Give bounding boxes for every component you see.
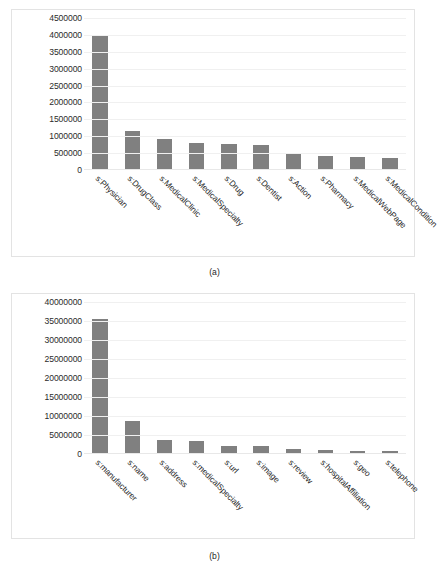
bar-slot: [277, 18, 309, 170]
y-axis-tick-label: 1000000: [49, 132, 82, 141]
x-axis-labels-b: s:manufacturers:names:addresss:medicalSp…: [84, 456, 406, 536]
gridline: [84, 302, 406, 303]
gridline: [84, 52, 406, 53]
plot-wrapper-a: 0500000100000015000002000000250000030000…: [12, 10, 414, 256]
bar: [125, 421, 140, 454]
y-axis-tick-label: 1500000: [49, 115, 82, 124]
y-axis-tick-label: 5000000: [49, 431, 82, 440]
bar-slot: [309, 18, 341, 170]
bar-slot: [374, 18, 406, 170]
bar: [350, 157, 365, 171]
y-axis-tick-label: 3500000: [49, 47, 82, 56]
gridline: [84, 321, 406, 322]
gridline: [84, 35, 406, 36]
bar-series-a: [84, 18, 406, 170]
y-axis-tick-label: 25000000: [45, 355, 82, 364]
bar: [157, 139, 172, 170]
gridline: [84, 340, 406, 341]
y-axis-a: 0500000100000015000002000000250000030000…: [16, 18, 82, 170]
bar: [157, 440, 172, 454]
y-axis-tick-label: 2500000: [49, 81, 82, 90]
y-axis-tick-label: 0: [77, 166, 82, 175]
gridline: [84, 153, 406, 154]
x-axis-line-a: [84, 169, 406, 170]
bar-slot: [342, 18, 374, 170]
y-axis-tick-label: 10000000: [45, 412, 82, 421]
x-axis-label-slot: s:MedicalSpecialty: [181, 172, 213, 252]
x-axis-label-slot: s:Action: [277, 172, 309, 252]
y-axis-tick-label: 3000000: [49, 64, 82, 73]
x-axis-tick-label: s:geo: [352, 458, 372, 478]
y-axis-tick-label: 4500000: [49, 14, 82, 23]
x-axis-tick-label: s:MedicalCondition: [384, 174, 439, 229]
gridline: [84, 378, 406, 379]
gridline: [84, 69, 406, 70]
gridline: [84, 416, 406, 417]
x-axis-label-slot: s:url: [213, 456, 245, 536]
bar-slot: [181, 18, 213, 170]
y-axis-tick-label: 0: [77, 450, 82, 459]
bar-slot: [116, 18, 148, 170]
bar: [253, 145, 268, 170]
bar-slot: [245, 18, 277, 170]
x-axis-label-slot: s:Pharmacy: [309, 172, 341, 252]
gridline: [84, 136, 406, 137]
figure-a: 0500000100000015000002000000250000030000…: [0, 0, 429, 283]
x-axis-label-slot: s:MedicalClinic: [148, 172, 180, 252]
y-axis-tick-label: 35000000: [45, 317, 82, 326]
plot-area-a: [84, 18, 406, 170]
plot-area-b: [84, 302, 406, 454]
x-axis-label-slot: s:telephone: [374, 456, 406, 536]
bar: [286, 153, 301, 170]
gridline: [84, 359, 406, 360]
chart-panel-b: 0500000010000000150000002000000025000000…: [11, 293, 415, 539]
gridline: [84, 435, 406, 436]
x-axis-label-slot: s:review: [277, 456, 309, 536]
x-axis-label-slot: s:image: [245, 456, 277, 536]
x-axis-label-slot: s:geo: [342, 456, 374, 536]
bar: [221, 144, 236, 170]
y-axis-tick-label: 4000000: [49, 31, 82, 40]
y-axis-tick-label: 2000000: [49, 98, 82, 107]
y-axis-tick-label: 500000: [54, 149, 82, 158]
x-axis-line-b: [84, 453, 406, 454]
gridline: [84, 119, 406, 120]
x-axis-label-slot: s:hospitalAffiliation: [309, 456, 341, 536]
gridline: [84, 397, 406, 398]
bar: [318, 156, 333, 170]
y-axis-tick-label: 40000000: [45, 298, 82, 307]
figure-caption-a: (a): [0, 267, 429, 277]
y-axis-tick-label: 15000000: [45, 393, 82, 402]
y-axis-tick-label: 30000000: [45, 336, 82, 345]
gridline: [84, 102, 406, 103]
y-axis-b: 0500000010000000150000002000000025000000…: [16, 302, 82, 454]
x-axis-label-slot: s:Dentist: [245, 172, 277, 252]
chart-panel-a: 0500000100000015000002000000250000030000…: [11, 9, 415, 257]
x-axis-tick-label: s:url: [223, 458, 240, 475]
bar-slot: [213, 18, 245, 170]
x-axis-label-slot: s:manufacturer: [84, 456, 116, 536]
x-axis-label-slot: s:name: [116, 456, 148, 536]
x-axis-labels-a: s:Physicians:DrugClasss:MedicalClinics:M…: [84, 172, 406, 252]
bar-slot: [84, 18, 116, 170]
plot-wrapper-b: 0500000010000000150000002000000025000000…: [12, 294, 414, 538]
gridline: [84, 18, 406, 19]
figure-b: 0500000010000000150000002000000025000000…: [0, 283, 429, 566]
gridline: [84, 86, 406, 87]
x-axis-label-slot: s:Drug: [213, 172, 245, 252]
y-axis-tick-label: 20000000: [45, 374, 82, 383]
x-axis-tick-label: s:telephone: [384, 458, 420, 494]
x-axis-label-slot: s:Physician: [84, 172, 116, 252]
x-axis-label-slot: s:MedicalWebPage: [342, 172, 374, 252]
x-axis-label-slot: s:medicalSpecialty: [181, 456, 213, 536]
bar-slot: [148, 18, 180, 170]
figure-caption-b: (b): [0, 551, 429, 561]
x-axis-label-slot: s:DrugClass: [116, 172, 148, 252]
bar: [189, 143, 204, 170]
x-axis-tick-label: s:Drug: [223, 174, 246, 197]
x-axis-label-slot: s:MedicalCondition: [374, 172, 406, 252]
x-axis-label-slot: s:address: [148, 456, 180, 536]
